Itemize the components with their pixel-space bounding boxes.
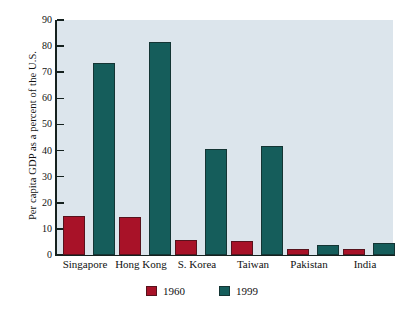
y-tick-label-text: 80 <box>28 41 52 51</box>
bar-singapore-1999 <box>93 63 115 255</box>
bar-hong-kong-1960 <box>119 217 141 255</box>
bar-taiwan-1999 <box>261 146 283 255</box>
bar-singapore-1960 <box>63 216 85 255</box>
y-tick-label: 30 <box>22 172 52 182</box>
x-tick-label: Taiwan <box>225 258 281 270</box>
y-tick-label-text: 10 <box>28 224 52 234</box>
y-tick-label: 80 <box>22 41 52 51</box>
y-tick-label: 70 <box>22 67 52 77</box>
bar-group <box>57 20 113 255</box>
bar-s-korea-1999 <box>205 149 227 255</box>
y-tick-label-text: 30 <box>28 172 52 182</box>
x-tick-label: Pakistan <box>281 258 337 270</box>
y-tick-label: 40 <box>22 146 52 156</box>
bar-taiwan-1960 <box>231 241 253 255</box>
y-tick-label-text: 90 <box>28 15 52 25</box>
bar-india-1999 <box>373 243 395 255</box>
bar-hong-kong-1999 <box>149 42 171 255</box>
x-tick-label: Hong Kong <box>113 258 169 270</box>
y-tick-label-text: 40 <box>28 146 52 156</box>
y-tick-label: 0 <box>22 250 52 260</box>
chart-legend: 19601999 <box>0 285 404 297</box>
y-tick-label: 60 <box>22 93 52 103</box>
bar-group <box>169 20 225 255</box>
y-tick-label: 20 <box>22 198 52 208</box>
x-tick-label: Singapore <box>57 258 113 270</box>
bar-india-1960 <box>343 249 365 255</box>
bar-pakistan-1960 <box>287 249 309 255</box>
y-tick-label: 50 <box>22 119 52 129</box>
y-tick-label-text: 60 <box>28 93 52 103</box>
bar-s-korea-1960 <box>175 240 197 255</box>
y-tick-label-text: 70 <box>28 67 52 77</box>
legend-item-1999: 1999 <box>219 285 258 297</box>
legend-label-1999: 1999 <box>236 285 258 297</box>
bar-group <box>225 20 281 255</box>
bar-group <box>281 20 337 255</box>
legend-item-1960: 1960 <box>146 285 185 297</box>
bar-group <box>337 20 393 255</box>
y-tick-label-text: 0 <box>28 250 52 260</box>
y-tick-label: 10 <box>22 224 52 234</box>
y-tick-label: 90 <box>22 15 52 25</box>
legend-swatch-1960 <box>146 286 157 296</box>
chart-figure: Per capita GDP as a percent of the U.S. … <box>0 0 404 312</box>
y-tick-label-text: 20 <box>28 198 52 208</box>
legend-swatch-1999 <box>219 286 230 296</box>
y-tick-label-text: 50 <box>28 119 52 129</box>
legend-label-1960: 1960 <box>163 285 185 297</box>
x-tick-label: S. Korea <box>169 258 225 270</box>
bar-group <box>113 20 169 255</box>
bar-pakistan-1999 <box>317 245 339 255</box>
x-tick-label: India <box>337 258 393 270</box>
y-axis-title: Per capita GDP as a percent of the U.S. <box>27 16 38 256</box>
